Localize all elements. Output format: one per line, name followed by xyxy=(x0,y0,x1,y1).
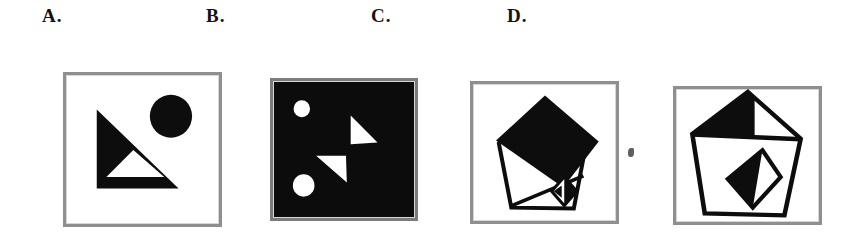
black-circle xyxy=(150,95,192,138)
black-top-left-triangle xyxy=(692,92,754,139)
white-circle-large xyxy=(293,174,315,196)
option-label-b: B. xyxy=(206,5,225,27)
option-b-figure-box[interactable] xyxy=(270,78,418,221)
option-a-figure-box[interactable] xyxy=(63,72,222,227)
figure-c-drawing xyxy=(473,84,616,221)
white-triangle-lower xyxy=(316,156,347,183)
option-label-d: D. xyxy=(507,5,527,27)
option-label-c: C. xyxy=(371,5,391,27)
option-c-figure-box[interactable] xyxy=(470,81,619,224)
figure-a-drawing xyxy=(66,75,219,224)
question-options-row: A. B. C. D. xyxy=(0,0,861,244)
figure-d-drawing xyxy=(676,89,819,222)
scan-artifact-dot xyxy=(628,148,634,157)
figure-b-drawing xyxy=(273,81,415,218)
option-d-figure-box[interactable] xyxy=(673,86,822,225)
white-circle-small xyxy=(294,100,310,117)
white-triangle-upper xyxy=(351,116,378,145)
option-label-a: A. xyxy=(42,5,62,27)
